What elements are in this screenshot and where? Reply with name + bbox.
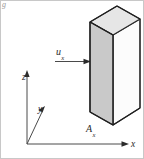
figure-container: g [0, 0, 144, 159]
axis-z-label: z [22, 73, 26, 83]
velocity-subscript: x [61, 54, 64, 61]
slab-side-face [113, 19, 140, 125]
axis-x-label: x [131, 140, 135, 150]
axis-y-line [27, 112, 42, 144]
slab-front-face [90, 22, 113, 125]
area-label: Ax [86, 124, 95, 137]
slab-body [90, 6, 140, 125]
axis-x-arrowhead [122, 141, 130, 146]
axis-y-label: y [38, 105, 42, 115]
area-subscript: x [92, 131, 95, 138]
velocity-label: ux [56, 47, 64, 60]
